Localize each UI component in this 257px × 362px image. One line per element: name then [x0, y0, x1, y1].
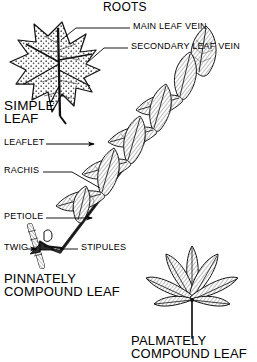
- callout-rachis: RACHIS: [4, 166, 39, 175]
- callout-stipules: STIPULES: [81, 243, 126, 252]
- callout-petiole: PETIOLE: [4, 212, 43, 221]
- callout-twig: TWIG: [4, 243, 28, 252]
- specimen-label-simple-leaf-line2: LEAF: [4, 112, 39, 126]
- callout-secondary-leaf-vein: SECONDARY LEAF VEIN: [131, 42, 240, 51]
- specimen-label-palmately-compound-leaf-line2: COMPOUND LEAF: [131, 347, 247, 361]
- callout-main-leaf-vein: MAIN LEAF VEIN: [133, 22, 207, 31]
- leaf-morphology-diagram: ROOTS MAIN LEAF VEIN SECONDARY LEAF VEIN…: [0, 0, 257, 362]
- diagram-artwork: [0, 0, 257, 362]
- specimen-label-pinnately-compound-leaf-line2: COMPOUND LEAF: [4, 285, 120, 299]
- page-title: ROOTS: [103, 1, 147, 14]
- callout-leaflet: LEAFLET: [4, 138, 44, 147]
